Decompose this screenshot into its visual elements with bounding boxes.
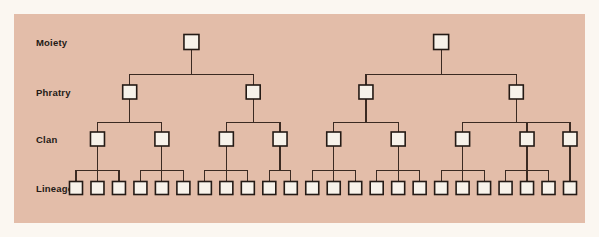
descent-hierarchy-diagram: Moiety Phratry Clan Lineage bbox=[14, 14, 585, 223]
moiety-node-2[interactable] bbox=[434, 35, 449, 50]
hierarchy-tree-svg bbox=[14, 14, 585, 223]
lineage-node-20[interactable] bbox=[478, 182, 491, 195]
lineage-node-5[interactable] bbox=[155, 182, 168, 195]
lineage-node-8[interactable] bbox=[220, 182, 233, 195]
phratry-node-4[interactable] bbox=[509, 85, 523, 99]
lineage-node-4[interactable] bbox=[134, 182, 147, 195]
lineage-node-6[interactable] bbox=[177, 182, 190, 195]
phratry-node-1[interactable] bbox=[123, 85, 137, 99]
lineage-node-7[interactable] bbox=[198, 182, 211, 195]
lineage-node-22[interactable] bbox=[521, 182, 534, 195]
clan-node-6[interactable] bbox=[391, 132, 405, 146]
figure-root: Moiety Phratry Clan Lineage bbox=[0, 0, 599, 237]
lineage-node-23[interactable] bbox=[542, 182, 555, 195]
lineage-node-2[interactable] bbox=[91, 182, 104, 195]
moiety-node-1[interactable] bbox=[184, 35, 199, 50]
lineage-node-16[interactable] bbox=[392, 182, 405, 195]
clan-node-8[interactable] bbox=[520, 132, 534, 146]
lineage-node-18[interactable] bbox=[435, 182, 448, 195]
clan-node-7[interactable] bbox=[456, 132, 470, 146]
lineage-node-13[interactable] bbox=[327, 182, 340, 195]
clan-node-3[interactable] bbox=[219, 132, 233, 146]
clan-node-5[interactable] bbox=[327, 132, 341, 146]
lineage-node-15[interactable] bbox=[370, 182, 383, 195]
clan-node-1[interactable] bbox=[90, 132, 104, 146]
lineage-node-3[interactable] bbox=[112, 182, 125, 195]
phratry-node-3[interactable] bbox=[359, 85, 373, 99]
clan-node-4[interactable] bbox=[273, 132, 287, 146]
clan-node-2[interactable] bbox=[155, 132, 169, 146]
lineage-node-19[interactable] bbox=[456, 182, 469, 195]
clan-node-9[interactable] bbox=[563, 132, 577, 146]
lineage-node-24[interactable] bbox=[564, 182, 577, 195]
lineage-node-14[interactable] bbox=[349, 182, 362, 195]
lineage-node-9[interactable] bbox=[241, 182, 254, 195]
lineage-node-21[interactable] bbox=[499, 182, 512, 195]
lineage-node-1[interactable] bbox=[70, 182, 83, 195]
lineage-node-11[interactable] bbox=[284, 182, 297, 195]
phratry-node-2[interactable] bbox=[246, 85, 260, 99]
lineage-node-17[interactable] bbox=[413, 182, 426, 195]
lineage-node-12[interactable] bbox=[306, 182, 319, 195]
lineage-node-10[interactable] bbox=[263, 182, 276, 195]
connector-lines-group bbox=[76, 50, 570, 182]
